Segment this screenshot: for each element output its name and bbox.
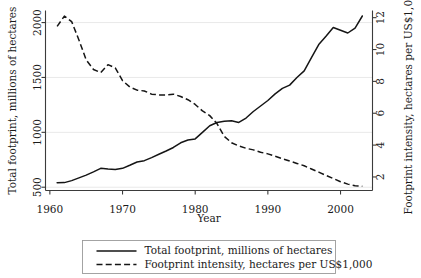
tick-label-right-12: 12	[375, 11, 387, 24]
tick-label-left-1000: 1000	[32, 119, 44, 146]
y2-axis-title: Footprint intensity, hectares per US$1,0…	[402, 0, 414, 214]
axes	[46, 11, 373, 191]
tick-label-x-2000: 2000	[327, 203, 354, 215]
gridlines	[46, 23, 373, 188]
y-axis-title: Total footprint, millions of hectares	[6, 7, 18, 195]
data-series	[57, 16, 362, 186]
tick-label-right-4: 4	[375, 141, 387, 148]
series-line-2	[57, 16, 362, 186]
series-line-1	[57, 16, 362, 183]
tick-marks	[42, 18, 377, 195]
tick-labels: 5001000150020002468101219601970198019902…	[32, 9, 387, 214]
tick-label-left-500: 500	[32, 177, 44, 197]
tick-label-right-8: 8	[375, 78, 387, 85]
tick-label-x-1960: 1960	[36, 203, 63, 215]
tick-label-right-2: 2	[375, 174, 387, 181]
tick-label-right-6: 6	[375, 110, 387, 117]
legend-label-2: Footprint intensity, hectares per US$1,0…	[145, 258, 373, 270]
tick-label-right-10: 10	[375, 43, 387, 56]
legend-label-1: Total footprint, millions of hectares	[145, 244, 333, 256]
tick-label-x-1990: 1990	[254, 203, 281, 215]
chart-legend: Total footprint, millions of hectaresFoo…	[83, 241, 373, 274]
tick-label-left-2000: 2000	[32, 9, 44, 36]
chart-figure: 5001000150020002468101219601970198019902…	[0, 0, 421, 278]
tick-label-x-1970: 1970	[109, 203, 136, 215]
tick-label-left-1500: 1500	[32, 64, 44, 91]
dual-axis-line-chart: 5001000150020002468101219601970198019902…	[0, 0, 421, 278]
x-axis-title: Year	[196, 212, 221, 224]
